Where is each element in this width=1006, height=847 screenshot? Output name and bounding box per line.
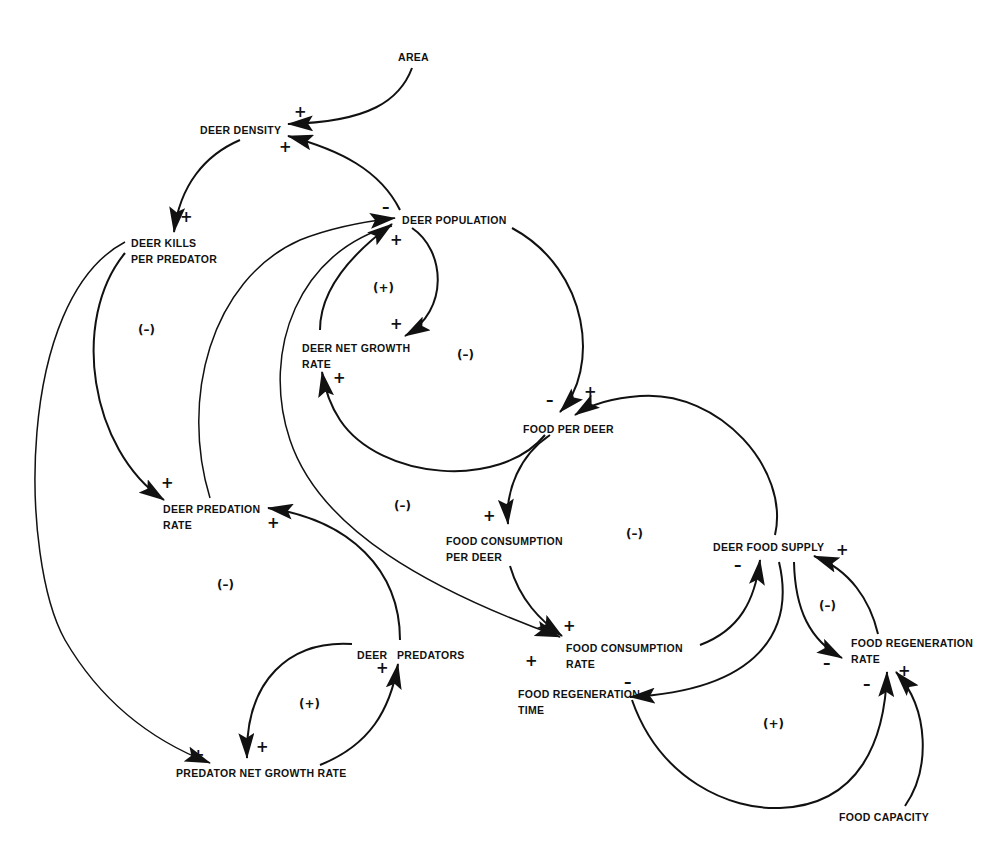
sign-plus: + [836,543,849,558]
node-deer-density: DEER DENSITY [200,122,281,138]
sign-plus: + [333,371,346,386]
node-food-regeneration-time: FOOD REGENERATION TIME [518,686,640,718]
link-food-regeneration-rate-to-deer-food-supply [814,556,878,634]
loop-label-predation-upper: (–) [138,323,155,337]
node-deer-food-supply: DEER FOOD SUPPLY [713,539,824,555]
link-deer-population-to-food-per-deer [512,228,583,412]
link-area-to-deer-density [288,68,412,124]
sign-minus: – [823,656,831,671]
node-label-line: DEER NET GROWTH [302,340,410,356]
loop-label-deer-growth: (+) [373,281,394,295]
node-label-line: RATE [302,356,410,372]
node-label-line: TIME [518,702,640,718]
node-label-line: PER PREDATOR [131,251,217,267]
node-deer-population: DEER POPULATION [402,212,507,228]
node-label-line: RATE [851,651,973,667]
loop-label-deer-food: (–) [457,348,474,362]
node-label-line: RATE [163,517,260,533]
loop-label-food-consumption: (–) [626,527,643,541]
loop-label-food-regeneration: (–) [819,599,836,613]
causal-loop-diagram [0,0,1006,847]
sign-plus: + [161,476,174,491]
sign-plus: + [898,664,911,679]
sign-plus: + [390,317,403,332]
node-deer-predators: DEER PREDATORS [357,647,465,663]
node-deer-kills-per-predator: DEER KILLS PER PREDATOR [131,235,217,267]
node-food-consumption-per-deer: FOOD CONSUMPTION PER DEER [446,533,563,565]
link-deer-predators-to-deer-predation-rate [268,508,400,640]
sign-plus: + [563,619,576,634]
sign-plus: + [256,740,269,755]
node-food-consumption-rate: FOOD CONSUMPTION RATE [566,640,683,672]
node-label-line: FOOD CONSUMPTION [566,640,683,656]
node-food-per-deer: FOOD PER DEER [523,421,614,437]
link-deer-population-to-food-consumption-rate [280,226,560,637]
link-food-per-deer-to-deer-net-growth [322,372,545,471]
sign-plus: + [279,140,292,155]
node-predator-net-growth-rate: PREDATOR NET GROWTH RATE [176,765,347,781]
link-deer-food-supply-to-food-regeneration-time [630,562,783,697]
link-deer-food-supply-to-food-per-deer [575,396,777,535]
sign-plus: + [294,105,307,120]
sign-plus: + [180,210,193,225]
sign-plus: + [390,233,403,248]
loop-label-predator-growth: (+) [299,697,320,711]
node-deer-net-growth-rate: DEER NET GROWTH RATE [302,340,410,372]
loop-label-predation-middle: (–) [394,499,411,513]
sign-plus: + [584,385,597,400]
loop-label-regeneration-time: (+) [763,717,784,731]
loop-label-predation-lower: (–) [217,578,234,592]
link-predator-net-growth-to-deer-predators [320,664,398,765]
link-food-consumption-rate-to-deer-food-supply [700,560,760,645]
node-label-line: RATE [566,656,683,672]
sign-plus: + [192,748,205,763]
node-label-line: FOOD REGENERATION [518,686,640,702]
node-label-line: DEER PREDATION [163,501,260,517]
sign-minus: – [734,558,742,573]
sign-plus: + [525,654,538,669]
node-deer-predation-rate: DEER PREDATION RATE [163,501,260,533]
link-deer-kills-to-deer-predation-rate [94,253,164,500]
sign-minus: – [624,675,632,690]
sign-plus: + [376,661,389,676]
sign-minus: – [382,200,390,215]
node-area: AREA [398,49,429,65]
sign-minus: – [546,393,554,408]
node-label-line: FOOD REGENERATION [851,635,973,651]
sign-plus: + [267,516,280,531]
link-deer-population-to-deer-net-growth [405,228,438,336]
link-food-consumption-per-deer-to-rate [510,566,562,636]
node-food-capacity: FOOD CAPACITY [839,809,929,825]
node-food-regeneration-rate: FOOD REGENERATION RATE [851,635,973,667]
link-food-per-deer-to-food-consumption-per-deer [508,435,550,524]
link-food-capacity-to-food-regeneration-rate [896,672,923,806]
sign-minus: – [863,677,871,692]
node-label-line: PER DEER [446,549,563,565]
sign-plus: + [483,509,496,524]
node-label-line: FOOD CONSUMPTION [446,533,563,549]
node-label-line: DEER KILLS [131,235,217,251]
